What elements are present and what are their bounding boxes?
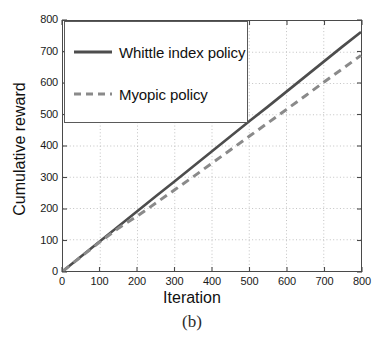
x-tick-label: 600 [267, 275, 307, 287]
legend-item-myopic-policy[interactable]: Myopic policy [65, 80, 247, 108]
x-tick-label: 0 [42, 275, 82, 287]
legend-label-myopic-policy: Myopic policy [119, 86, 208, 103]
x-tick-label: 800 [342, 275, 382, 287]
x-axis-label: Iteration [0, 289, 384, 307]
legend[interactable]: Whittle index policy Myopic policy [64, 21, 248, 123]
x-tick-label: 500 [230, 275, 270, 287]
legend-item-whittle-index-policy[interactable]: Whittle index policy [65, 38, 247, 66]
x-tick-label: 400 [192, 275, 232, 287]
legend-label-whittle-index-policy: Whittle index policy [119, 44, 245, 61]
y-axis-label: Cumulative reward [11, 82, 28, 215]
legend-swatch-dashed-line [73, 87, 113, 101]
y-axis-label-wrapper: Cumulative reward [11, 19, 33, 279]
x-tick-label: 300 [155, 275, 195, 287]
legend-swatch-solid-line [73, 45, 113, 59]
x-tick-label: 700 [305, 275, 345, 287]
figure-caption: (b) [0, 312, 384, 332]
x-tick-label: 200 [117, 275, 157, 287]
figure-panel-b: 0100200300400500600700800 01002003004005… [0, 0, 384, 345]
x-tick-label: 100 [80, 275, 120, 287]
